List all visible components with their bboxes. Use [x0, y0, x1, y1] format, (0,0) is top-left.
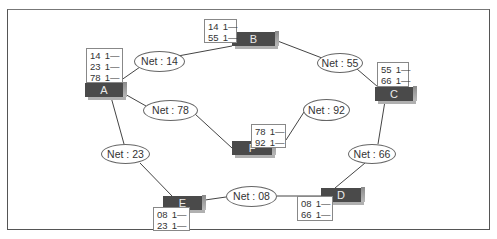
- routing-table-b: 14 1— 55 1—: [204, 19, 237, 43]
- routing-table-f: 78 1— 92 1—: [251, 124, 286, 148]
- routing-table-c: 55 1— 66 1—: [377, 62, 409, 87]
- table-hop: 1—: [223, 21, 238, 32]
- table-hop: 1—: [396, 64, 411, 75]
- table-dest: 08: [301, 198, 313, 209]
- table-hop: 1—: [172, 209, 187, 220]
- table-row: 23 1—: [90, 61, 119, 72]
- table-hop: 1—: [105, 72, 120, 83]
- table-dest: 08: [157, 209, 169, 220]
- network-cloud-66: Net : 66: [348, 144, 396, 164]
- routing-table-d: 08 1— 66 1—: [297, 196, 333, 221]
- table-hop: 1—: [105, 61, 120, 72]
- table-dest: 78: [90, 72, 102, 83]
- table-row: 23 1—: [157, 220, 186, 231]
- table-hop: 1—: [172, 220, 187, 231]
- table-dest: 23: [157, 220, 169, 231]
- table-dest: 55: [208, 32, 220, 43]
- table-hop: 1—: [316, 198, 331, 209]
- routing-table-e: 08 1— 23 1—: [153, 207, 190, 231]
- network-cloud-23: Net : 23: [101, 144, 150, 164]
- table-dest: 78: [255, 126, 267, 137]
- table-hop: 1—: [396, 75, 411, 86]
- table-dest: 14: [90, 50, 102, 61]
- table-row: 14 1—: [208, 21, 233, 32]
- table-dest: 23: [90, 61, 102, 72]
- table-hop: 1—: [223, 32, 238, 43]
- table-row: 66 1—: [381, 75, 405, 86]
- table-row: 66 1—: [301, 209, 329, 220]
- table-row: 78 1—: [255, 126, 282, 137]
- table-hop: 1—: [270, 126, 285, 137]
- network-cloud-14: Net : 14: [134, 51, 185, 72]
- table-dest: 92: [255, 137, 267, 148]
- router-node-b: B: [232, 32, 275, 46]
- network-diagram: 14 1— 23 1— 78 1— A B 14 1— 55 1— 55 1— …: [0, 0, 497, 239]
- network-cloud-92: Net : 92: [303, 99, 350, 121]
- table-hop: 1—: [270, 137, 285, 148]
- table-row: 55 1—: [208, 32, 233, 43]
- routing-table-a: 14 1— 23 1— 78 1—: [86, 48, 123, 83]
- table-row: 78 1—: [90, 72, 119, 83]
- table-hop: 1—: [316, 209, 331, 220]
- table-dest: 66: [381, 75, 393, 86]
- table-row: 14 1—: [90, 50, 119, 61]
- table-dest: 55: [381, 64, 393, 75]
- network-cloud-78: Net : 78: [143, 100, 198, 121]
- table-row: 55 1—: [381, 64, 405, 75]
- table-row: 92 1—: [255, 137, 282, 148]
- table-row: 08 1—: [301, 198, 329, 209]
- table-dest: 14: [208, 21, 220, 32]
- table-hop: 1—: [105, 50, 120, 61]
- network-cloud-55: Net : 55: [317, 53, 363, 73]
- table-row: 08 1—: [157, 209, 186, 220]
- router-node-c: C: [375, 87, 413, 101]
- network-cloud-08: Net : 08: [226, 186, 277, 207]
- router-node-a: A: [85, 83, 123, 97]
- table-dest: 66: [301, 209, 313, 220]
